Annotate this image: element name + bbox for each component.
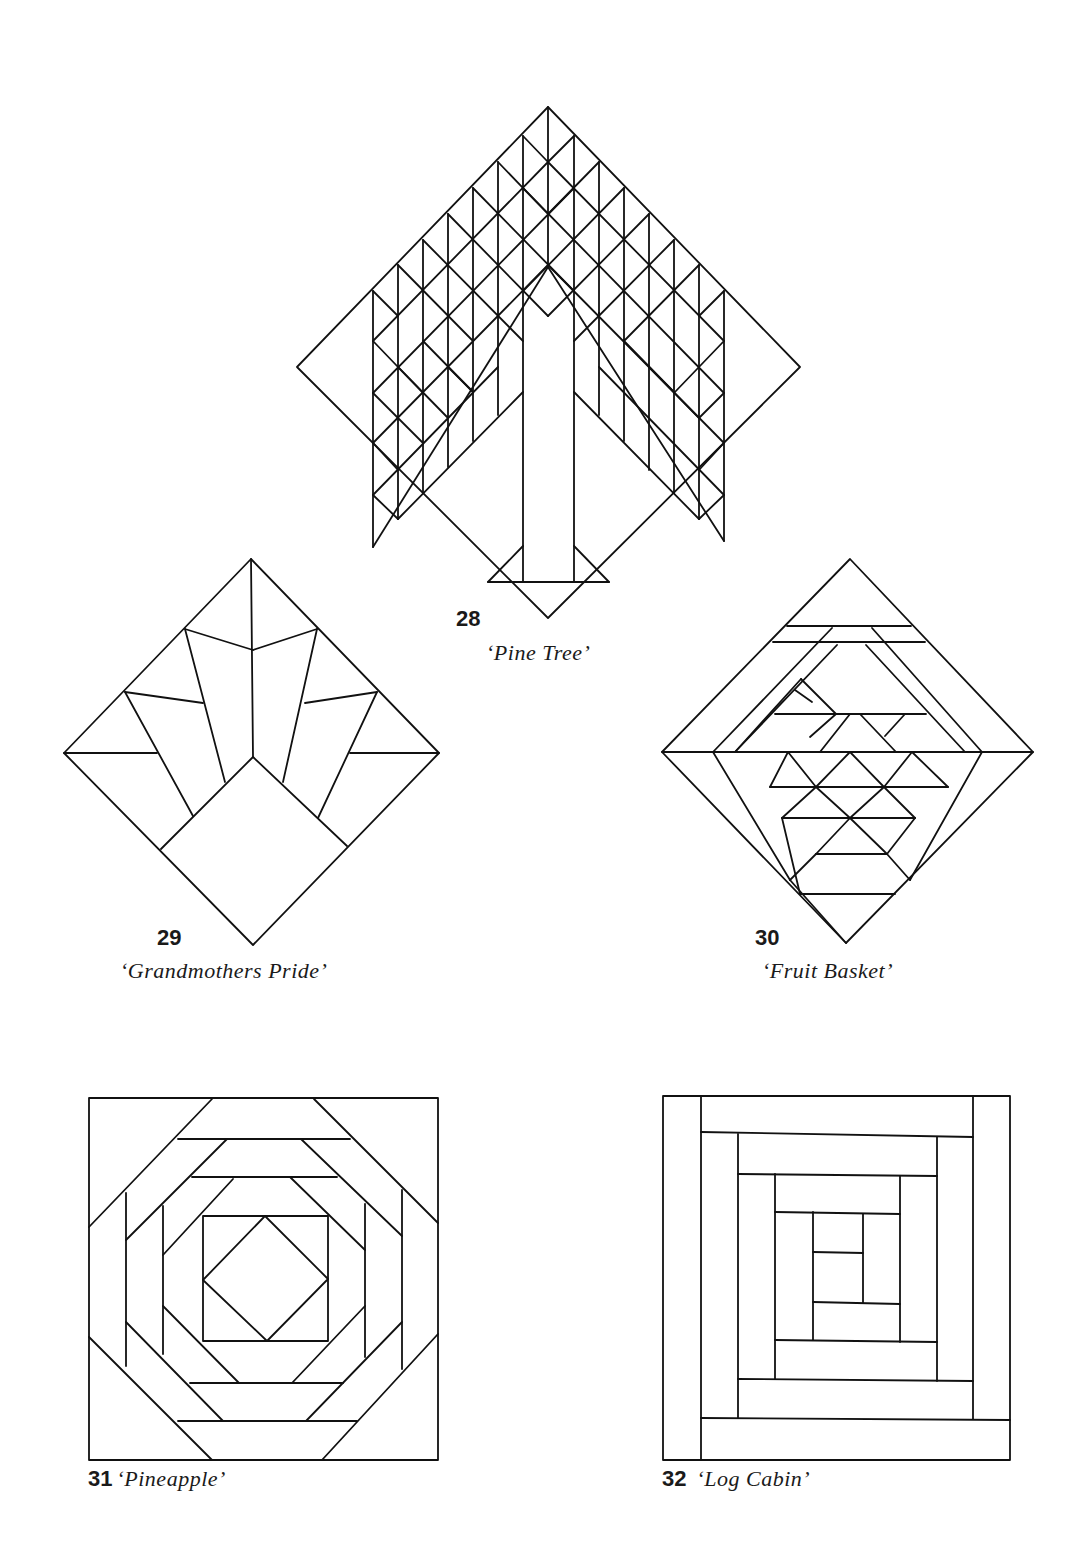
figure-title: ‘Pine Tree’ — [486, 640, 590, 665]
pineapple-block — [89, 1098, 438, 1460]
fruit-basket-block — [662, 559, 1033, 943]
caption-29-title: ‘Grandmothers Pride’ — [120, 958, 327, 984]
grandmothers-pride-block — [64, 559, 439, 945]
caption-31: 31 ‘Pineapple’ — [88, 1466, 226, 1492]
caption-28: 28 — [456, 606, 480, 632]
caption-29: 29 — [157, 925, 181, 951]
caption-30: 30 — [755, 925, 779, 951]
log-cabin-block — [663, 1096, 1010, 1460]
caption-30-title: ‘Fruit Basket’ — [762, 958, 893, 984]
figure-title: ‘Grandmothers Pride’ — [120, 958, 327, 983]
figure-number: 32 — [662, 1466, 686, 1491]
caption-32: 32 ‘Log Cabin’ — [662, 1466, 810, 1492]
figure-number: 28 — [456, 606, 480, 631]
pine-tree-block — [297, 107, 800, 618]
figure-title: ‘Pineapple’ — [116, 1466, 225, 1491]
figure-title: ‘Fruit Basket’ — [762, 958, 893, 983]
figure-number: 29 — [157, 925, 181, 950]
figure-number: 30 — [755, 925, 779, 950]
figure-title: ‘Log Cabin’ — [696, 1466, 810, 1491]
caption-28-title: ‘Pine Tree’ — [486, 640, 590, 666]
figure-number: 31 — [88, 1466, 112, 1491]
